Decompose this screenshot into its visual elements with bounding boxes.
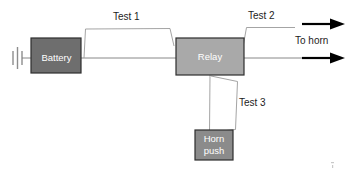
battery-node[interactable]: Battery: [31, 38, 81, 73]
test-1-label: Test 1: [113, 11, 140, 22]
horn-push-label-line2: push: [204, 145, 225, 156]
test-3-bracket-right: [211, 76, 238, 132]
diagram-canvas: Battery Relay Horn push Test 1 Test 2 Te…: [0, 0, 352, 188]
horn-output-arrow-lower: [302, 53, 345, 64]
relay-node[interactable]: Relay: [176, 38, 244, 75]
arrow-right-icon-head-lower: [330, 53, 345, 64]
test-3-bracket-left: [210, 75, 211, 132]
test-2-bracket: [241, 28, 295, 59]
test-2-label: Test 2: [248, 10, 275, 21]
horn-push-node[interactable]: Horn push: [195, 130, 233, 160]
to-horn-label: To horn: [295, 35, 328, 46]
wiring-diagram: Battery Relay Horn push Test 1 Test 2 Te…: [0, 0, 352, 188]
ground-symbol: [13, 47, 31, 69]
relay-label: Relay: [198, 51, 223, 62]
battery-label: Battery: [41, 52, 71, 63]
scan-artifact-speck: [331, 162, 334, 168]
arrow-right-icon-head-upper: [330, 19, 345, 30]
test-1-bracket: [84, 29, 174, 59]
horn-push-label-line1: Horn: [204, 133, 225, 144]
horn-output-arrow-upper: [302, 19, 345, 30]
test-3-label: Test 3: [239, 97, 266, 108]
